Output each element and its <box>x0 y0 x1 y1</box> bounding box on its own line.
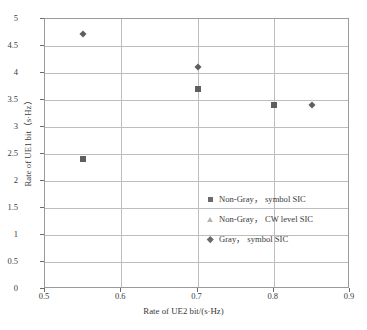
gridline-horizontal <box>45 262 348 263</box>
legend-item-label: Gray， symbol SIC <box>219 235 288 244</box>
gridline-horizontal <box>45 127 348 128</box>
legend-item-label: Non-Gray， symbol SIC <box>219 195 306 204</box>
legend-item[interactable]: Gray， symbol SIC <box>204 229 354 249</box>
y-tick-label: 5 <box>0 13 18 23</box>
x-tick-label: 0.9 <box>344 291 355 301</box>
diamond-marker-icon <box>204 237 216 242</box>
x-tick-mark <box>349 288 350 292</box>
y-tick-label: 0.5 <box>0 256 18 266</box>
data-point-marker <box>194 64 201 71</box>
x-tick-mark <box>197 288 198 292</box>
y-tick-label: 3 <box>0 121 18 131</box>
triangle-marker-icon <box>204 217 216 222</box>
square-marker-icon <box>204 197 216 202</box>
x-tick-label: 0.5 <box>39 291 50 301</box>
y-tick-label: 2 <box>0 175 18 185</box>
legend-item[interactable]: Non-Gray， CW level SIC <box>204 209 354 229</box>
gridline-horizontal <box>45 73 348 74</box>
data-point-marker <box>308 102 315 109</box>
legend-item[interactable]: Non-Gray， symbol SIC <box>204 189 354 209</box>
gridline-vertical <box>198 19 199 287</box>
x-axis-title: Rate of UE2 bit/(s·Hz) <box>0 306 367 316</box>
gridline-horizontal <box>45 154 348 155</box>
plot-area: Non-Gray， symbol SICNon-Gray， CW level S… <box>44 18 349 288</box>
x-tick-mark <box>44 288 45 292</box>
x-tick-mark <box>120 288 121 292</box>
y-tick-label: 1 <box>0 229 18 239</box>
y-tick-label: 0 <box>0 283 18 293</box>
y-tick-label: 4 <box>0 67 18 77</box>
gridline-horizontal <box>45 100 348 101</box>
data-point-marker <box>80 31 87 38</box>
x-tick-mark <box>273 288 274 292</box>
x-tick-label: 0.8 <box>267 291 278 301</box>
scatter-chart-figure: 00.511.522.533.544.55 0.50.60.70.80.9 No… <box>0 0 367 330</box>
gridline-horizontal <box>45 46 348 47</box>
y-tick-label: 2.5 <box>0 148 18 158</box>
gridline-vertical <box>121 19 122 287</box>
data-point-marker <box>80 156 86 162</box>
legend-item-label: Non-Gray， CW level SIC <box>219 215 313 224</box>
data-point-marker <box>271 102 277 108</box>
y-tick-label: 4.5 <box>0 40 18 50</box>
gridline-horizontal <box>45 181 348 182</box>
y-axis-title: Rate of UE1 bit（s·Hz） <box>21 52 34 232</box>
chart-legend: Non-Gray， symbol SICNon-Gray， CW level S… <box>204 189 354 249</box>
x-tick-label: 0.6 <box>115 291 126 301</box>
x-tick-label: 0.7 <box>191 291 202 301</box>
data-point-marker <box>195 86 201 92</box>
y-tick-label: 3.5 <box>0 94 18 104</box>
y-tick-label: 1.5 <box>0 202 18 212</box>
